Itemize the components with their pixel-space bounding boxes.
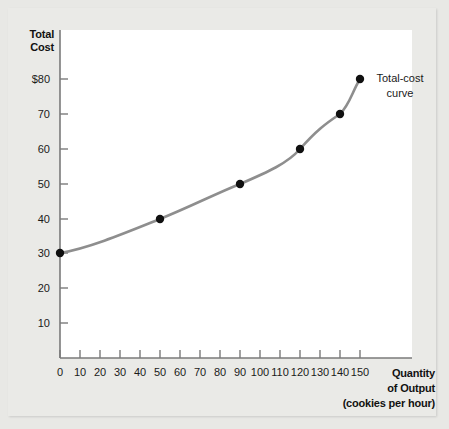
x-tick-label-10: 10 bbox=[70, 367, 90, 378]
data-point bbox=[296, 145, 304, 153]
x-tick-label-70: 70 bbox=[190, 367, 210, 378]
y-tick-marks bbox=[60, 79, 68, 323]
x-axis-title-line3: (cookies per hour) bbox=[343, 396, 435, 411]
y-tick-label-10: 10 bbox=[12, 318, 50, 329]
x-tick-label-20: 20 bbox=[90, 367, 110, 378]
chart-figure: Total Cost $80 70 60 50 40 30 20 10 0 10… bbox=[0, 0, 449, 429]
curve-annotation-line1: Total-cost bbox=[364, 71, 436, 86]
y-tick-label-80: $80 bbox=[12, 74, 50, 85]
y-tick-label-20: 20 bbox=[12, 283, 50, 294]
x-axis-title-line1: Quantity bbox=[343, 366, 435, 381]
y-tick-label-50: 50 bbox=[12, 179, 50, 190]
curve-annotation-label: Total-cost curve bbox=[364, 71, 436, 101]
y-axis-title-line1: Total bbox=[12, 28, 54, 41]
data-point bbox=[336, 110, 344, 118]
y-tick-label-60: 60 bbox=[12, 144, 50, 155]
y-axis-title-line2: Cost bbox=[12, 41, 54, 54]
data-point bbox=[156, 215, 164, 223]
x-axis-title-line2: of Output bbox=[343, 381, 435, 396]
x-tick-label-50: 50 bbox=[150, 367, 170, 378]
y-axis-title: Total Cost bbox=[12, 28, 54, 54]
data-point-markers bbox=[56, 75, 364, 257]
y-tick-label-40: 40 bbox=[12, 214, 50, 225]
x-axis-title: Quantity of Output (cookies per hour) bbox=[343, 366, 435, 411]
x-tick-label-80: 80 bbox=[210, 367, 230, 378]
data-point bbox=[356, 75, 364, 83]
data-point bbox=[56, 249, 64, 257]
x-tick-marks bbox=[60, 350, 360, 358]
curve-annotation-line2: curve bbox=[364, 86, 436, 101]
x-tick-label-0: 0 bbox=[50, 367, 70, 378]
x-tick-label-60: 60 bbox=[170, 367, 190, 378]
x-tick-label-40: 40 bbox=[130, 367, 150, 378]
y-tick-label-70: 70 bbox=[12, 109, 50, 120]
x-tick-label-30: 30 bbox=[110, 367, 130, 378]
total-cost-curve bbox=[60, 79, 360, 253]
data-point bbox=[236, 180, 244, 188]
x-tick-label-90: 90 bbox=[230, 367, 250, 378]
y-tick-label-30: 30 bbox=[12, 248, 50, 259]
chart-canvas bbox=[0, 0, 449, 429]
